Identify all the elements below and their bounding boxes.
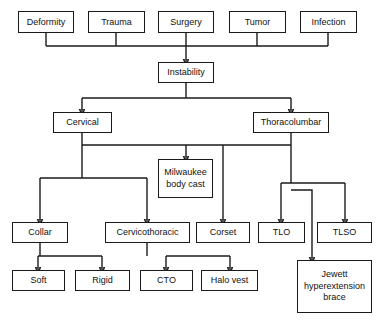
node-cervical[interactable]: Cervical [53, 112, 112, 133]
node-thoracolumbar[interactable]: Thoracolumbar [253, 112, 329, 133]
node-halo-vest[interactable]: Halo vest [201, 270, 258, 291]
node-tumor[interactable]: Tumor [229, 11, 286, 33]
node-cervicothoracic[interactable]: Cervicothoracic [105, 222, 190, 243]
node-corset[interactable]: Corset [196, 222, 250, 243]
node-surgery[interactable]: Surgery [158, 11, 214, 33]
node-tlso[interactable]: TLSO [317, 222, 372, 243]
node-milwaukee-body-cast[interactable]: Milwaukeebody cast [158, 159, 213, 198]
node-tlo[interactable]: TLO [258, 222, 305, 243]
node-rigid[interactable]: Rigid [75, 270, 130, 291]
node-jewett-hyperextension-brace[interactable]: Jewetthyperextensionbrace [297, 260, 372, 313]
node-trauma[interactable]: Trauma [88, 11, 145, 33]
node-infection[interactable]: Infection [300, 11, 357, 33]
flowchart-canvas: Deformity Trauma Surgery Tumor Infection… [0, 0, 385, 320]
node-cto[interactable]: CTO [140, 270, 193, 291]
node-soft[interactable]: Soft [12, 270, 65, 291]
node-instability[interactable]: Instability [158, 62, 214, 83]
node-collar[interactable]: Collar [12, 222, 68, 243]
node-deformity[interactable]: Deformity [18, 11, 74, 33]
